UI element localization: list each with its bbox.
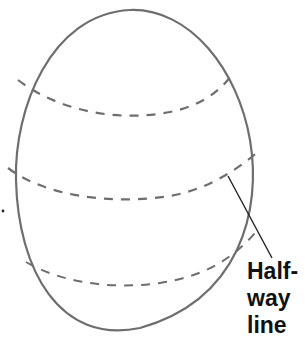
- label-line-3: line: [247, 312, 298, 339]
- upper-guide-line: [18, 72, 234, 116]
- label-pointer-line: [228, 176, 272, 258]
- halfway-line-label: Half- way line: [247, 258, 298, 339]
- label-line-1: Half-: [247, 258, 298, 285]
- halfway-guide-line: [8, 150, 260, 199]
- label-line-2: way: [247, 285, 298, 312]
- egg-outline: [16, 10, 253, 330]
- lower-guide-line: [26, 232, 256, 285]
- stray-dot: [2, 210, 5, 213]
